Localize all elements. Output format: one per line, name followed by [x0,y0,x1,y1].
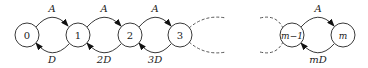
edge-0-1 [36,17,68,27]
svg-text:2: 2 [127,30,133,41]
node-0: 0 [15,23,39,47]
node-m-minus-1: m−1 [280,23,304,47]
dashed-continuation-left [260,17,283,28]
edge-label-0-1: A [47,3,55,14]
dashed-continuation-left-bottom [260,42,283,53]
edge-3-2 [139,43,171,53]
edge-label-1-0: D [47,54,56,65]
node-m: m [331,23,355,47]
edge-2-1 [87,43,121,53]
dashed-continuation-right [189,17,226,28]
edge-label-1-2: A [99,3,107,14]
edge-label-2-3: A [150,3,158,14]
svg-text:m: m [339,31,348,41]
svg-text:m−1: m−1 [281,31,303,41]
svg-text:1: 1 [75,30,81,41]
node-1: 1 [66,23,90,47]
dashed-continuation-right-bottom [189,42,226,53]
edge-label-3-2: 3D [148,54,162,65]
edge-m1-m [301,17,334,27]
edge-m-m1 [301,43,334,53]
edge-1-2 [87,17,121,27]
svg-text:0: 0 [24,30,30,41]
edge-label-2-1: 2D [96,54,111,65]
node-2: 2 [118,23,142,47]
edge-1-0 [36,43,69,53]
svg-text:3: 3 [177,30,183,41]
edge-2-3 [139,17,171,27]
edge-label-m1-m: A [313,3,321,14]
edge-label-m-m1: mD [309,54,327,65]
state-diagram: 0 1 2 3 m−1 m A A A A D 2D 3D mD [0,0,368,68]
node-3: 3 [168,23,192,47]
